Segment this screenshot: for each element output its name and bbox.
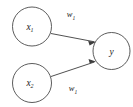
node-x2-label-subscript: 2	[31, 83, 34, 89]
node-x2[interactable]: x2	[13, 64, 52, 103]
node-y[interactable]: y	[93, 33, 130, 70]
edge-label-w1-bottom-subscript: 1	[74, 89, 77, 95]
edge-x1-to-y	[51, 34, 96, 46]
node-y-label: y	[108, 47, 114, 57]
edge-label-w1-top: w1	[67, 9, 76, 21]
edge-x2-to-y	[51, 59, 96, 77]
edge-line-x1-y	[51, 34, 95, 42]
node-x1-label-subscript: 1	[31, 27, 34, 33]
edge-label-w1-bottom: w1	[69, 83, 78, 95]
edge-label-w1-top-subscript: 1	[72, 15, 75, 21]
edge-line-x2-y	[51, 62, 95, 77]
diagram-canvas: x1 x2 y w1 w1	[0, 0, 133, 107]
network-diagram: x1 x2 y w1 w1	[0, 0, 133, 107]
node-x1[interactable]: x1	[13, 7, 52, 46]
node-y-label-text: y	[108, 47, 114, 57]
